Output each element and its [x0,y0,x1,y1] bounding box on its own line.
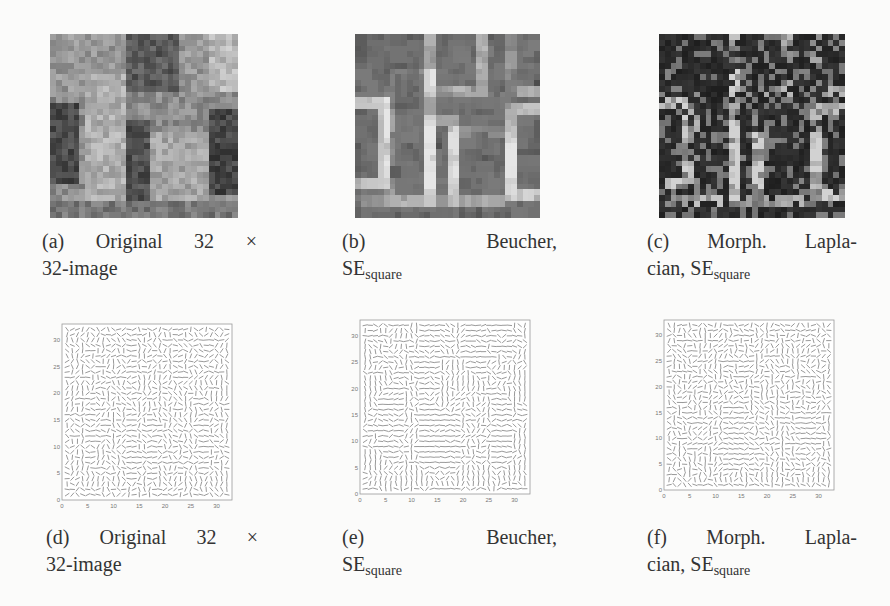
y-tick-label: 5 [355,465,359,471]
panel-a-original-image [50,34,238,218]
caption-b: (b) Beucher, SEsquare [342,228,557,288]
caption-word: × [246,228,257,255]
caption-se-subscript: square [714,267,751,282]
caption-word: Morph. [707,228,766,255]
y-tick-label: 30 [351,333,358,339]
x-tick-label: 25 [187,503,194,509]
y-tick-label: 30 [655,332,662,338]
y-tick-label: 25 [655,358,662,364]
x-tick-label: 15 [136,503,143,509]
caption-word: Original [100,524,167,551]
y-tick-label: 20 [655,384,662,390]
panel-b-beucher-image [355,34,540,218]
caption-a: (a) Original 32 × 32-image [42,228,257,282]
caption-line2: 32-image [42,257,118,279]
caption-se: cian, SE [647,257,714,279]
caption-e: (e) Beucher, SEsquare [342,524,557,584]
y-tick-label: 10 [53,444,60,450]
caption-se-subscript: square [365,267,402,282]
quiver-plot-beucher: 051015202530051015202530 [350,318,532,506]
caption-word: × [247,524,258,551]
x-tick-label: 5 [384,497,388,503]
x-tick-label: 25 [789,493,796,499]
x-tick-label: 0 [358,497,362,503]
caption-se: cian, SE [647,553,714,575]
y-tick-label: 15 [53,417,60,423]
y-tick-label: 30 [53,337,60,343]
caption-word: 32 [194,228,214,255]
caption-label: (a) [42,228,64,255]
x-tick-label: 5 [86,503,90,509]
x-tick-label: 0 [60,503,64,509]
caption-word: Original [96,228,163,255]
y-tick-label: 15 [655,410,662,416]
y-tick-label: 5 [659,461,663,467]
x-tick-label: 0 [662,493,666,499]
x-tick-label: 25 [485,497,492,503]
panel-d-quiver: 051015202530051015202530 [52,322,234,512]
caption-d: (d) Original 32 × 32-image [46,524,258,578]
caption-word: Beucher, [486,228,557,255]
x-tick-label: 30 [213,503,220,509]
x-tick-label: 5 [688,493,692,499]
quiver-plot-laplacian: 051015202530051015202530 [654,318,836,502]
y-tick-label: 25 [351,359,358,365]
panel-e-quiver: 051015202530051015202530 [350,318,532,506]
y-tick-label: 15 [351,412,358,418]
caption-label: (d) [46,524,69,551]
x-tick-label: 20 [162,503,169,509]
quiver-plot-original: 051015202530051015202530 [52,322,234,512]
y-tick-label: 10 [655,435,662,441]
caption-line2: 32-image [46,553,122,575]
caption-word: Lapla- [805,524,857,551]
x-tick-label: 20 [764,493,771,499]
caption-label: (c) [647,228,669,255]
x-tick-label: 10 [110,503,117,509]
y-tick-label: 25 [53,364,60,370]
laplacian-image-canvas [659,34,845,218]
caption-word: Lapla- [805,228,857,255]
y-tick-label: 20 [53,390,60,396]
beucher-image-canvas [355,34,540,218]
caption-label: (f) [647,524,667,551]
x-tick-label: 15 [738,493,745,499]
caption-f: (f) Morph. Lapla- cian, SEsquare [647,524,857,584]
caption-c: (c) Morph. Lapla- cian, SEsquare [647,228,857,288]
x-tick-label: 30 [511,497,518,503]
x-tick-label: 30 [815,493,822,499]
caption-label: (e) [342,524,364,551]
panel-f-quiver: 051015202530051015202530 [654,318,836,502]
x-tick-label: 10 [712,493,719,499]
y-tick-label: 20 [351,386,358,392]
x-tick-label: 10 [408,497,415,503]
x-tick-label: 20 [460,497,467,503]
caption-word: Beucher, [486,524,557,551]
panel-c-laplacian-image [659,34,845,218]
y-tick-label: 5 [57,470,61,476]
caption-word: 32 [196,524,216,551]
caption-se: SE [342,257,365,279]
x-tick-label: 15 [434,497,441,503]
caption-word: Morph. [706,524,765,551]
caption-se-subscript: square [714,563,751,578]
y-tick-label: 10 [351,438,358,444]
caption-se: SE [342,553,365,575]
original-image-canvas [50,34,238,218]
caption-se-subscript: square [365,563,402,578]
caption-label: (b) [342,228,365,255]
